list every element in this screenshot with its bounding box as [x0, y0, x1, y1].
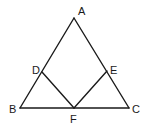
label-e: E — [110, 64, 117, 76]
label-a: A — [78, 5, 86, 17]
segment-ef — [74, 71, 107, 108]
segment-df — [42, 72, 74, 108]
segment-ca — [74, 18, 129, 108]
segment-ab — [20, 18, 74, 108]
label-d: D — [32, 64, 40, 76]
label-c: C — [132, 103, 140, 115]
label-f: F — [70, 113, 77, 125]
label-b: B — [9, 103, 16, 115]
triangle-diagram: A B C D E F — [0, 0, 148, 126]
